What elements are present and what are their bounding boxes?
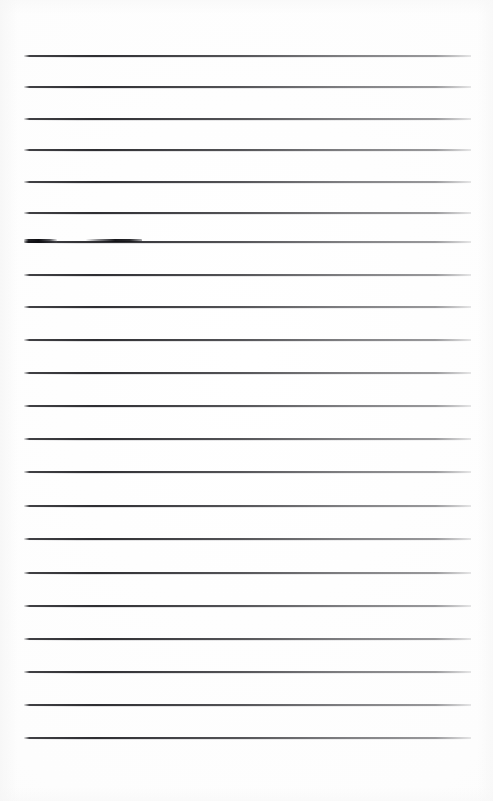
rule-line-9 [24,306,471,308]
rule-line-12 [24,405,471,407]
rule-line-11 [24,372,471,374]
rule-line-3 [24,118,471,120]
scanned-page [0,0,493,801]
rule-line-22 [24,737,471,739]
rule-line-6 [24,212,471,214]
rule-line-17 [24,572,471,574]
rule-line-10 [24,339,471,341]
rule-line-18 [24,605,471,607]
rule-line-4 [24,149,471,151]
ink-mark-smudge-left [24,239,57,243]
rule-line-16 [24,538,471,540]
rule-line-1 [24,55,471,57]
rule-line-19 [24,638,471,640]
rule-line-5 [24,181,471,183]
ink-mark-smudge-right [86,239,142,242]
rule-line-2 [24,86,471,88]
rule-line-20 [24,671,471,673]
rule-line-8 [24,274,471,276]
rule-line-21 [24,704,471,706]
rule-line-13 [24,438,471,440]
rule-line-15 [24,505,471,507]
rule-line-14 [24,471,471,473]
